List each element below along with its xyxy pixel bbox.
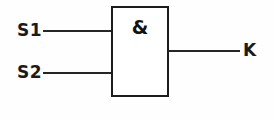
and-gate-symbol: & — [111, 18, 169, 37]
diagram-canvas: S1 S2 K & — [0, 0, 275, 120]
input-label-s1: S1 — [17, 22, 42, 39]
input-label-s2: S2 — [17, 64, 42, 81]
output-label-k: K — [243, 42, 257, 59]
